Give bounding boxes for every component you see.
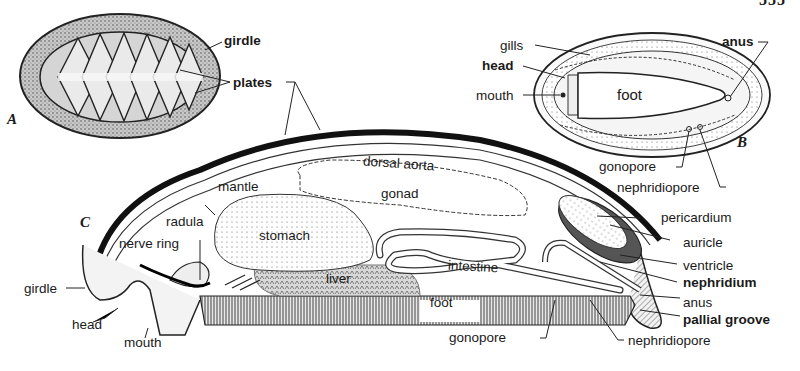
label-c-foot: foot xyxy=(430,296,453,310)
label-c-nerve-ring: nerve ring xyxy=(119,237,179,251)
label-c-nephridium: nephridium xyxy=(683,276,757,290)
label-b-nephridiopore: nephridiopore xyxy=(617,181,700,195)
label-c-head: head xyxy=(72,318,102,332)
label-c-mouth: mouth xyxy=(124,336,162,350)
label-c-nephridiopore: nephridiopore xyxy=(628,334,711,348)
label-c-stomach: stomach xyxy=(259,229,310,243)
page-number-fragment: 555 xyxy=(759,0,786,9)
label-a-plates: plates xyxy=(233,76,272,90)
label-c-liver: liver xyxy=(326,272,351,286)
panel-letter-a: A xyxy=(7,111,17,128)
label-c-girdle: girdle xyxy=(24,282,57,296)
label-c-auricle: auricle xyxy=(683,236,723,250)
label-c-pericardium: pericardium xyxy=(661,211,732,225)
label-b-anus: anus xyxy=(722,35,754,49)
label-c-pallial-groove: pallial groove xyxy=(683,313,770,327)
label-c-ventricle: ventricle xyxy=(683,259,733,273)
panel-letter-b: B xyxy=(737,134,747,151)
label-b-head: head xyxy=(482,59,514,73)
label-c-radula: radula xyxy=(166,215,204,229)
label-b-mouth: mouth xyxy=(476,89,514,103)
panel-a-dorsal-view xyxy=(20,14,320,138)
label-b-foot: foot xyxy=(617,87,642,102)
label-b-gills: gills xyxy=(500,39,523,53)
label-b-gonopore: gonopore xyxy=(599,160,656,174)
label-c-gonopore: gonopore xyxy=(449,331,506,345)
label-c-anus: anus xyxy=(683,296,712,310)
label-c-mantle: mantle xyxy=(218,180,259,194)
label-c-intestine: intestine xyxy=(448,259,499,275)
label-c-gonad: gonad xyxy=(381,187,419,201)
panel-letter-c: C xyxy=(80,214,90,231)
label-a-girdle: girdle xyxy=(224,34,261,48)
